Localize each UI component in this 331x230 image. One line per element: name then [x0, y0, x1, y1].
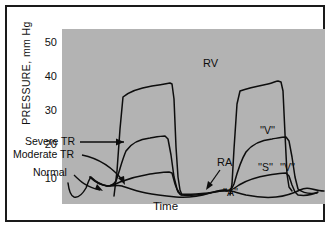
annotation-v-wave-2: ''V'': [280, 162, 295, 173]
figure-root: PRESSURE, mm Hg 50 40 30 20 10: [0, 0, 331, 230]
x-axis-label: Time: [0, 200, 331, 212]
annotation-a-wave: ''A'': [223, 187, 238, 198]
annotation-rv: RV: [203, 58, 218, 69]
label-severe-tr: Severe TR: [25, 136, 75, 147]
annotation-ra: RA: [217, 157, 232, 168]
y-tick-30: 30: [35, 105, 57, 116]
annotation-s-wave: ''S'': [258, 162, 273, 173]
y-tick-40: 40: [35, 71, 57, 82]
y-axis-label: PRESSURE, mm Hg: [20, 8, 32, 138]
moderate-tr-arrowhead: [118, 176, 125, 185]
waveform-canvas: [62, 29, 325, 204]
plot-area: RV RA ''V'' ''S'' ''V'' ''A'': [62, 29, 325, 204]
annotation-v-wave-1: ''V'': [260, 125, 275, 136]
label-moderate-tr: Moderate TR: [13, 149, 74, 160]
y-tick-50: 50: [35, 37, 57, 48]
trace-rv: [114, 81, 292, 196]
label-normal: Normal: [33, 167, 67, 178]
figure-frame: PRESSURE, mm Hg 50 40 30 20 10: [5, 5, 325, 222]
severe-tr-arrowhead: [116, 139, 124, 146]
